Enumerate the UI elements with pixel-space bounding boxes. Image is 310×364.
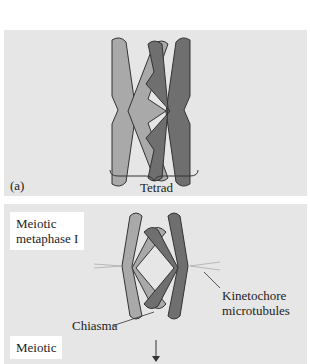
panel-label-a: (a) xyxy=(10,178,24,193)
tetrad-illustration xyxy=(4,30,307,196)
chiasma-label: Chiasma xyxy=(72,318,118,333)
panel-a-tetrad: (a) Tetrad xyxy=(4,30,307,196)
tetrad-label: Tetrad xyxy=(140,180,173,195)
panel-b-metaphase: Meiotic metaphase I Chiasma Kinetochore … xyxy=(4,204,307,364)
stage-label-anaphase: Meiotic xyxy=(10,336,62,359)
kinetochore-label: Kinetochore microtubules xyxy=(222,288,290,318)
stage-label-metaphase: Meiotic metaphase I xyxy=(10,212,84,250)
